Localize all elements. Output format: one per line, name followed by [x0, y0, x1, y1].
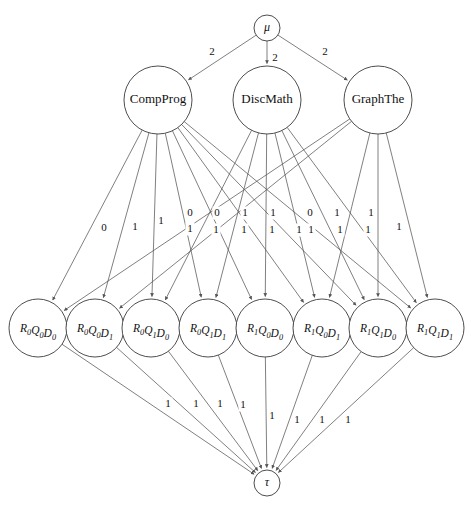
edge-compprog-to-r0q0d1: [103, 133, 149, 298]
edge-capacity-label: 2: [322, 45, 328, 57]
edge-capacity-label: 1: [132, 220, 138, 232]
edge-capacity-label: 1: [365, 223, 371, 235]
state-node-r1q0d1: R1Q0D1: [293, 299, 351, 357]
edge-capacity-label: 1: [308, 223, 314, 235]
edge-capacity-label: 1: [368, 206, 374, 218]
edge-r1q1d0-to-tau: [276, 352, 361, 471]
node-label: τ: [265, 475, 270, 489]
edge-discmath-to-r1q0d0: [265, 134, 266, 297]
edge-capacity-label: 1: [269, 223, 275, 235]
edge-r0q0d1-to-tau: [117, 347, 256, 472]
flow-network-diagram: μCompProgDiscMathGraphTheR0Q0D0R0Q0D1R0Q…: [0, 0, 474, 511]
edge-discmath-to-r0q1d0: [165, 130, 251, 300]
edge-capacity-label: 1: [296, 223, 302, 235]
edge-capacity-label: 1: [345, 413, 351, 425]
edge-compprog-to-r0q1d1: [165, 133, 201, 297]
state-node-r0q1d1: R0Q1D1: [179, 299, 237, 357]
edge-capacity-label: 1: [294, 413, 300, 425]
edge-capacity-label: 1: [337, 223, 343, 235]
state-node-r1q1d0: R1Q1D0: [349, 299, 407, 357]
edge-capacity-label: 2: [209, 45, 215, 57]
edge-r1q1d1-to-tau: [278, 348, 413, 473]
node-label: μ: [263, 20, 270, 34]
edge-capacity-label: 1: [334, 206, 340, 218]
edge-capacity-label: 1: [158, 214, 164, 226]
source-node-mu: μ: [254, 15, 280, 41]
edge-compprog-to-r0q1d0: [152, 134, 157, 297]
edge-r0q0d0-to-tau: [62, 344, 254, 474]
course-node-discmath: DiscMath: [233, 66, 301, 134]
state-node-r0q1d0: R0Q1D0: [122, 299, 180, 357]
edge-capacity-label: 1: [165, 397, 171, 409]
edge-capacity-label: 0: [307, 206, 313, 218]
edge-capacity-label: 1: [319, 413, 325, 425]
edge-capacity-label: 0: [214, 206, 220, 218]
sink-node-tau: τ: [254, 470, 280, 496]
edge-capacity-label: 0: [101, 221, 107, 233]
edge-capacity-label: 1: [193, 397, 199, 409]
edge-capacity-label: 1: [241, 223, 247, 235]
edge-r1q0d1-to-tau: [272, 355, 312, 468]
edge-capacity-label: 1: [396, 220, 402, 232]
edge-discmath-to-r0q1d1: [216, 133, 259, 298]
edge-capacity-label: 1: [270, 206, 276, 218]
course-node-compprog: CompProg: [124, 66, 192, 134]
node-label: CompProg: [130, 91, 187, 106]
edge-r0q1d1-to-tau: [218, 355, 261, 468]
node-label: DiscMath: [241, 91, 293, 106]
diagram-canvas: μCompProgDiscMathGraphTheR0Q0D0R0Q0D1R0Q…: [0, 0, 474, 511]
state-node-r0q0d0: R0Q0D0: [9, 299, 67, 357]
edge-capacity-label: 1: [269, 409, 275, 421]
edge-r1q0d0-to-tau: [265, 357, 266, 468]
edge-graphthe-to-r1q1d1: [386, 133, 427, 297]
node-label: GraphThe: [352, 91, 405, 106]
edge-capacity-label: 1: [217, 397, 223, 409]
state-node-r0q0d1: R0Q0D1: [66, 299, 124, 357]
edge-capacity-label: 0: [187, 206, 193, 218]
edge-compprog-to-r0q0d0: [53, 130, 142, 300]
edge-capacity-label: 1: [187, 222, 193, 234]
edge-capacity-label: 1: [240, 398, 246, 410]
course-node-graphthe: GraphThe: [344, 66, 412, 134]
state-node-r1q0d0: R1Q0D0: [236, 299, 294, 357]
node-layer: μCompProgDiscMathGraphTheR0Q0D0R0Q0D1R0Q…: [9, 15, 464, 496]
edge-capacity-label: 2: [272, 51, 278, 63]
edge-capacity-label: 1: [213, 223, 219, 235]
state-node-r1q1d1: R1Q1D1: [406, 299, 464, 357]
edge-capacity-label: 1: [242, 206, 248, 218]
